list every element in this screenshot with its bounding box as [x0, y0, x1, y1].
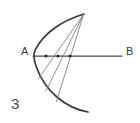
parabola-arc: [34, 14, 88, 112]
intersection-point-3: [68, 54, 71, 57]
geometry-figure-svg: [0, 0, 140, 123]
figure-container: A B 3: [0, 0, 140, 123]
chord-line-1: [57, 15, 84, 102]
point-label-a: A: [21, 46, 28, 57]
intersection-point-2: [56, 54, 59, 57]
point-label-b: B: [126, 46, 133, 57]
figure-number-label: 3: [11, 96, 19, 111]
chord-line-2: [46, 15, 84, 92]
intersection-point-1: [44, 54, 47, 57]
